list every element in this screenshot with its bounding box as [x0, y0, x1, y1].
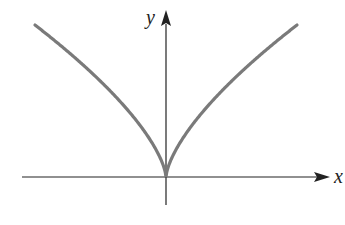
- y-axis-label: y: [144, 6, 155, 29]
- y-axis-arrow-icon: [161, 10, 171, 26]
- plot-canvas: x y: [0, 0, 345, 225]
- x-axis-label: x: [333, 165, 343, 187]
